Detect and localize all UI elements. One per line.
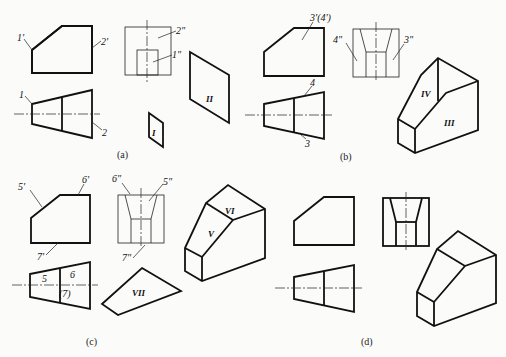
svg-text:IV: IV bbox=[420, 89, 432, 99]
front-view-c bbox=[31, 195, 90, 243]
caption-c: (c) bbox=[86, 336, 97, 348]
front-view-d bbox=[294, 197, 354, 245]
label-6: 6 bbox=[70, 269, 75, 280]
panel-a: 1' 2' 2" 1" 1 2 I II (a) bbox=[14, 20, 229, 161]
svg-text:V: V bbox=[208, 229, 215, 239]
svg-text:I: I bbox=[151, 128, 156, 138]
caption-d: (d) bbox=[361, 336, 373, 348]
label-3-4-prime: 3'(4') bbox=[309, 12, 332, 24]
svg-text:VII: VII bbox=[132, 288, 146, 298]
panel-c: 5' 6' 7' 6" 5" 7" 5 6 (7) VII bbox=[12, 173, 265, 348]
isometric-view-c bbox=[185, 185, 265, 281]
label-2-prime: 2' bbox=[101, 36, 109, 47]
label-4: 4 bbox=[310, 77, 315, 88]
label-7-hidden: (7) bbox=[59, 288, 71, 300]
svg-text:II: II bbox=[205, 94, 214, 104]
caption-b: (b) bbox=[340, 151, 352, 163]
drawing-svg: 1' 2' 2" 1" 1 2 I II (a) 3'(4') bbox=[0, 0, 506, 357]
label-5-prime: 5' bbox=[18, 181, 26, 192]
label-5-double-prime: 5" bbox=[163, 176, 173, 187]
label-4-double-prime: 4" bbox=[333, 34, 343, 45]
isometric-view-b bbox=[398, 58, 478, 153]
side-view-a bbox=[125, 27, 171, 75]
front-view-a bbox=[32, 26, 92, 73]
label-6-double-prime: 6" bbox=[112, 173, 122, 184]
label-6-prime: 6' bbox=[82, 174, 90, 185]
label-3: 3 bbox=[304, 138, 310, 149]
label-1: 1 bbox=[19, 89, 24, 100]
label-7-prime: 7' bbox=[37, 251, 45, 262]
caption-a: (a) bbox=[117, 149, 128, 161]
label-1-double-prime: 1" bbox=[172, 49, 182, 60]
label-2: 2 bbox=[102, 127, 107, 138]
label-2-double-prime: 2" bbox=[176, 25, 186, 36]
label-5: 5 bbox=[42, 273, 47, 284]
panel-b: 3'(4') 4" 3" 4 3 IV III (b) bbox=[245, 12, 478, 163]
panel-d: (d) bbox=[275, 192, 496, 348]
front-view-b bbox=[264, 28, 324, 76]
three-view-projection-figure: 1' 2' 2" 1" 1 2 I II (a) 3'(4') bbox=[0, 0, 506, 357]
label-1-prime: 1' bbox=[17, 32, 25, 43]
svg-text:III: III bbox=[443, 118, 455, 128]
face-II-true-shape bbox=[190, 52, 229, 123]
side-view-b bbox=[353, 29, 399, 77]
label-3-double-prime: 3" bbox=[403, 34, 414, 45]
label-7-double-prime: 7" bbox=[122, 252, 132, 263]
svg-text:VI: VI bbox=[225, 206, 235, 216]
